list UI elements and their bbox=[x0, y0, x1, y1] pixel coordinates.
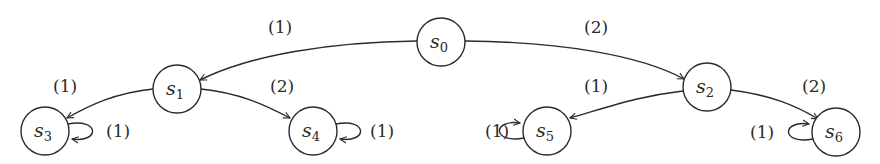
self-loop-s4 bbox=[336, 123, 361, 139]
edge-label-s6-loop: (1) bbox=[750, 122, 774, 142]
edge-label-s4-loop: (1) bbox=[370, 121, 394, 141]
edge-label-s1-s4: (2) bbox=[270, 76, 294, 96]
node-s6: s6 bbox=[812, 108, 860, 156]
edge-label-s5-loop: (1) bbox=[485, 121, 509, 141]
edge-s1-s3 bbox=[67, 89, 153, 118]
edge-label-s3-loop: (1) bbox=[106, 121, 130, 141]
node-s1: s1 bbox=[153, 65, 201, 113]
self-loop-s3 bbox=[68, 123, 93, 139]
edge-label-s2-s5: (1) bbox=[584, 76, 608, 96]
edge-label-s0-s1: (1) bbox=[268, 17, 292, 37]
node-s5: s5 bbox=[523, 107, 571, 155]
edge-s0-s2 bbox=[465, 41, 684, 79]
edge-label-s0-s2: (2) bbox=[584, 17, 608, 37]
edge-s0-s1 bbox=[200, 41, 417, 80]
self-loop-s6 bbox=[788, 124, 813, 140]
node-s2: s2 bbox=[683, 63, 731, 111]
node-s0: s0 bbox=[417, 18, 465, 66]
state-diagram: (1) (2) (1) (2) (1) (2) (1) (1) (1) (1) … bbox=[0, 0, 880, 164]
edge-label-s1-s3: (1) bbox=[53, 76, 77, 96]
node-s3: s3 bbox=[21, 107, 69, 155]
node-s4: s4 bbox=[289, 107, 337, 155]
edge-label-s2-s6: (2) bbox=[802, 76, 826, 96]
